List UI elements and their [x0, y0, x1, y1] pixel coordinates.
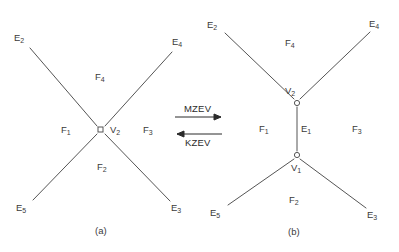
diagram-line-art [0, 0, 399, 252]
mzev-arrow-head [214, 114, 221, 120]
edge-a-e5-line [33, 134, 97, 200]
kzev-arrow-head [177, 131, 184, 137]
vertex-a-v2-marker [98, 127, 103, 132]
label-a-face-f1: F1 [61, 125, 71, 135]
label-b-vertex-v2: V2 [285, 86, 295, 96]
label-a-vertex-v2: V2 [110, 125, 120, 135]
figure-canvas: MZEV KZEV E2 E4 E5 E3 F1 F2 F3 F4 V2 (a)… [0, 0, 399, 252]
label-b-edge-e5: E5 [210, 208, 220, 218]
label-b-vertex-v1: V1 [291, 163, 301, 173]
edge-a-e3-line [105, 134, 170, 201]
label-b-edge-e3: E3 [367, 210, 377, 220]
edge-a-e2-line [30, 48, 97, 126]
edge-a-e4-line [105, 52, 172, 126]
label-a-face-f4: F4 [95, 72, 105, 82]
label-b-face-f2: F2 [289, 195, 299, 205]
label-a-edge-e5: E5 [16, 203, 26, 213]
label-a-face-f3: F3 [143, 125, 153, 135]
label-b-face-f1: F1 [259, 124, 269, 134]
label-a-edge-e4: E4 [172, 37, 182, 47]
label-b-edge-e4: E4 [369, 19, 379, 29]
label-b-edge-e2: E2 [207, 20, 217, 30]
label-a-edge-e2: E2 [14, 33, 24, 43]
edge-b-e4-line [300, 32, 370, 99]
label-b-edge-e1: E1 [301, 124, 311, 134]
label-b-face-f3: F3 [352, 124, 362, 134]
label-a-edge-e3: E3 [171, 203, 181, 213]
vertex-b-v1-marker [294, 152, 299, 157]
operation-label-mzev: MZEV [184, 104, 211, 114]
edge-b-e5-line [228, 159, 294, 205]
edge-b-e2-line [225, 33, 294, 99]
vertex-b-v2-marker [294, 100, 299, 105]
label-b-face-f4: F4 [285, 38, 295, 48]
caption-diagram-a: (a) [95, 226, 107, 236]
label-a-face-f2: F2 [97, 162, 107, 172]
operation-label-kzev: KZEV [185, 138, 211, 148]
caption-diagram-b: (b) [288, 227, 300, 237]
edge-b-e3-line [300, 159, 366, 208]
